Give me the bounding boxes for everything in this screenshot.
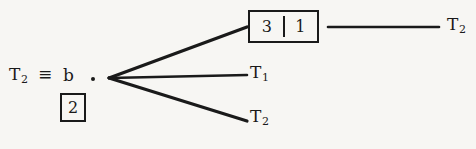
- branch-label-t2-base: T: [250, 106, 262, 126]
- equivalence-symbol: ≡: [38, 66, 52, 83]
- left-term-label: T2: [9, 66, 28, 85]
- index-box: 2: [60, 93, 86, 122]
- branch-label-t1: T1: [250, 64, 269, 83]
- state-box-left-value: 3: [250, 17, 284, 36]
- continuation-label-subscript: 2: [459, 23, 467, 36]
- edge-lower-branch: [109, 78, 247, 121]
- branch-label-t2-subscript: 2: [262, 115, 270, 128]
- left-term-base: T: [9, 64, 21, 84]
- junction-dot-icon: [91, 77, 95, 81]
- continuation-label-base: T: [447, 14, 459, 34]
- edge-middle-branch: [109, 75, 247, 78]
- continuation-label-t2: T2: [447, 16, 466, 35]
- index-box-value: 2: [68, 98, 78, 117]
- branch-label-t2: T2: [250, 108, 269, 127]
- state-box-divider-icon: [283, 16, 285, 37]
- state-box: 3 1: [248, 10, 319, 43]
- branch-label-t1-subscript: 1: [262, 71, 270, 84]
- left-term-subscript: 2: [21, 73, 29, 86]
- edge-upper-branch: [109, 27, 247, 78]
- variable-b-label: b: [63, 67, 74, 84]
- branch-label-t1-base: T: [250, 62, 262, 82]
- diagram-canvas: T2 ≡ b 2 3 1 T1 T2 T2: [0, 0, 476, 149]
- state-box-right-value: 1: [284, 17, 318, 36]
